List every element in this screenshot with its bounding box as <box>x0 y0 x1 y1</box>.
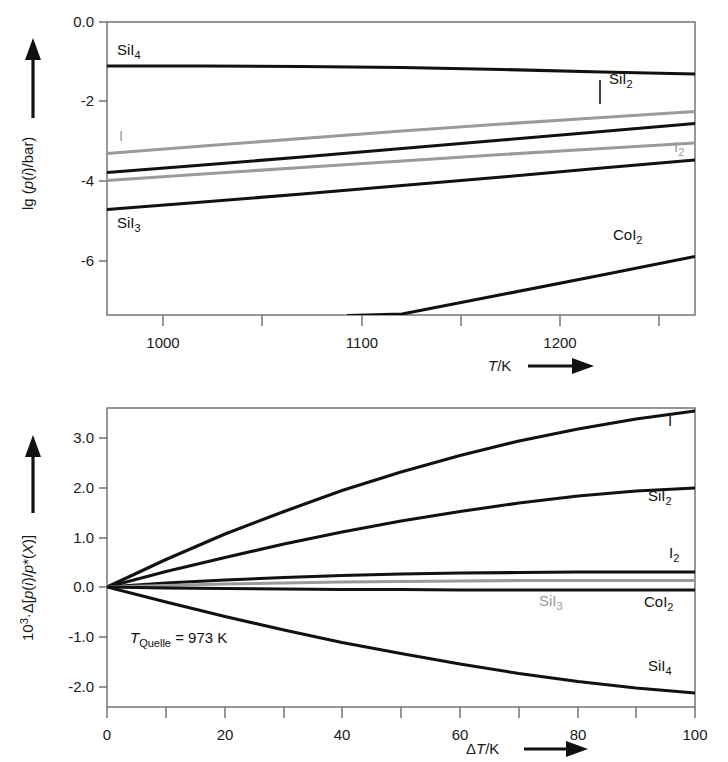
curve-CoI2-top <box>347 257 695 316</box>
y-axis-title-bottom: 103·Δ[p(i)/p*(X)] <box>18 535 36 641</box>
figure-root: 0.0 -2 -4 -6 1000 1100 1200 lg (p(i)/bar… <box>0 0 728 762</box>
y-tick-label: -4 <box>81 172 94 189</box>
curve-label-SiI4-bottom: SiI4 <box>648 657 672 677</box>
x-axis-title-bottom: ΔT/K <box>466 740 499 757</box>
ylabel2-post: )] <box>19 535 36 544</box>
y-tick-label: -2.0 <box>68 678 94 695</box>
y-axis-arrow-bottom <box>25 435 41 513</box>
svg-text:103·Δ[p(i)/p*(X)]: 103·Δ[p(i)/p*(X)] <box>18 535 36 641</box>
y-axis-arrow-top <box>25 38 41 118</box>
ylabel2-mid: ·Δ[ <box>19 598 36 618</box>
bottom-x-axis-title-group: ΔT/K <box>0 735 728 762</box>
curve-SiI4-top <box>107 66 695 74</box>
curve-CoI2-bottom <box>107 587 695 590</box>
ylabel2-p: p <box>19 591 36 600</box>
x-axis-ticks-bottom <box>107 707 695 718</box>
y-tick-label: 2.0 <box>73 479 94 496</box>
curve-label-CoI2-bottom: CoI2 <box>644 593 673 613</box>
svg-text:T/K: T/K <box>488 357 511 374</box>
x-axis-ticks-top <box>163 315 659 326</box>
y-tick-label: -6 <box>81 252 94 269</box>
curve-label-SiI3-bottom: SiI3 <box>539 592 563 612</box>
curve-I-bottom <box>107 411 695 587</box>
x-tick-label: 1100 <box>346 334 378 351</box>
curve-label-SiI3-top: SiI3 <box>117 214 141 234</box>
annotation-source-temperature: TQuelle = 973 K <box>130 629 227 649</box>
bottom-curves <box>107 411 695 693</box>
ylabel2-o3: *( <box>19 554 36 565</box>
y-tick-label: 0.0 <box>73 13 94 30</box>
ylabel-pre: lg ( <box>19 189 36 210</box>
x-tick-label: 1200 <box>543 334 576 351</box>
top-curves <box>107 66 695 316</box>
curve-label-SiI4-top: SiI4 <box>117 41 141 61</box>
ylabel2-p2: p <box>19 565 36 574</box>
y-tick-label: 0.0 <box>73 578 94 595</box>
x-tick-label: 1000 <box>146 334 179 351</box>
curve-label-CoI2-top: CoI2 <box>613 226 642 246</box>
curve-label-I2-bottom: I2 <box>669 544 679 564</box>
curve-label-I-bottom: I <box>668 412 672 429</box>
y-axis-ticks-top <box>99 22 107 261</box>
y-axis-ticks-bottom <box>99 438 107 687</box>
y-tick-label: -1.0 <box>68 628 94 645</box>
plot-frame-bottom <box>107 408 695 707</box>
chart-panel-bottom: 3.0 2.0 1.0 0.0 -1.0 -2.0 0 20 <box>0 381 728 762</box>
curve-label-I2-top: I2 <box>674 138 684 158</box>
y-tick-label: 1.0 <box>73 529 94 546</box>
top-chart-svg: 0.0 -2 -4 -6 1000 1100 1200 lg (p(i)/bar… <box>0 0 728 381</box>
ylabel-p: p <box>19 181 36 190</box>
curve-label-I-top: I <box>119 127 123 144</box>
xlabel-rest: /K <box>497 357 511 374</box>
y-tick-label: -2 <box>81 92 94 109</box>
bottom-chart-svg: 3.0 2.0 1.0 0.0 -1.0 -2.0 0 20 <box>0 381 728 762</box>
chart-panel-top: 0.0 -2 -4 -6 1000 1100 1200 lg (p(i)/bar… <box>0 0 728 381</box>
y-axis-title-top: lg (p(i)/bar) <box>19 137 36 210</box>
curve-SiI3-top <box>107 160 695 210</box>
ylabel2-pre: 10 <box>19 624 36 641</box>
y-tick-label: 3.0 <box>73 429 94 446</box>
x-axis-title-top: T/K <box>488 357 594 374</box>
ylabel-post: )/bar) <box>19 137 36 173</box>
svg-text:lg (p(i)/bar): lg (p(i)/bar) <box>19 137 36 210</box>
